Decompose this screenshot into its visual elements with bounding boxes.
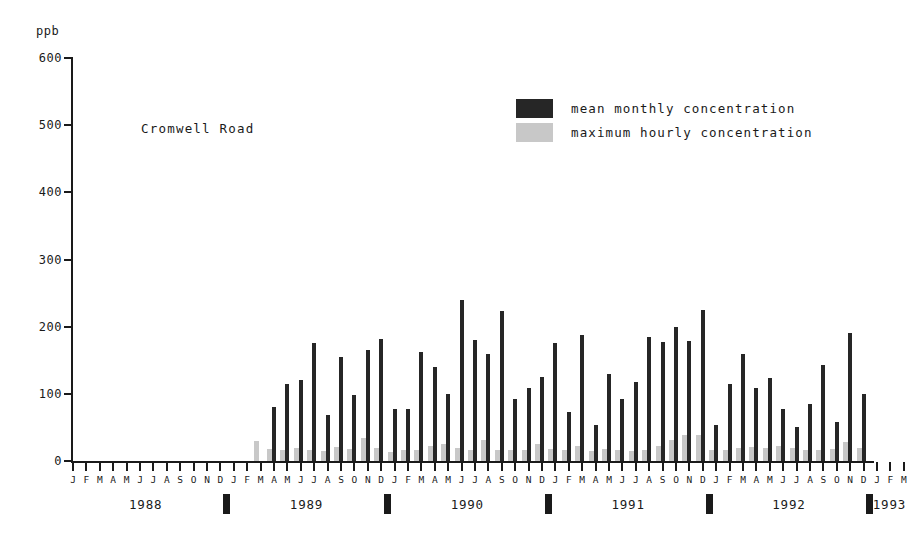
bar-mean-monthly [607,374,611,461]
bar-mean-monthly [821,365,825,461]
month-label: S [656,474,670,485]
month-label: J [227,474,241,485]
x-tick [782,462,784,471]
month-label: M [254,474,268,485]
x-tick [635,462,637,471]
bar-mean-monthly [661,342,665,461]
y-tick-label-text: 600 [22,51,62,65]
y-tick-label-text: 200 [22,320,62,334]
bar-mean-monthly [433,367,437,461]
x-tick [179,462,181,471]
x-tick [809,462,811,471]
x-tick [715,462,717,471]
x-tick [126,462,128,471]
month-label: J [146,474,160,485]
x-tick [755,462,757,471]
year-label-1991: 1991 [588,497,668,512]
month-label: N [200,474,214,485]
year-label-1988: 1988 [106,497,186,512]
x-tick [327,462,329,471]
x-tick [407,462,409,471]
y-tick-label-600: 600 [18,51,62,65]
bar-mean-monthly [808,404,812,461]
month-label: S [334,474,348,485]
y-tick-label-500: 500 [18,118,62,132]
x-tick [353,462,355,471]
chart-legend: mean monthly concentration maximum hourl… [516,96,813,144]
month-label: D [857,474,871,485]
x-tick [648,462,650,471]
year-label-1993: 1993 [849,497,911,512]
x-tick [246,462,248,471]
bar-mean-monthly [393,409,397,461]
month-label: O [187,474,201,485]
month-label: O [669,474,683,485]
y-tick-label-300: 300 [18,253,62,267]
x-tick [286,462,288,471]
legend-item-maximum-hourly: maximum hourly concentration [516,120,813,144]
x-tick [313,462,315,471]
year-separator [866,494,873,514]
bar-mean-monthly [701,310,705,461]
month-label: F [401,474,415,485]
x-tick [675,462,677,471]
bar-mean-monthly [567,412,571,461]
x-tick [769,462,771,471]
bar-mean-monthly [620,399,624,461]
month-label: M [120,474,134,485]
x-tick [340,462,342,471]
month-label: J [294,474,308,485]
x-tick [139,462,141,471]
bar-mean-monthly [741,354,745,461]
y-tick-label-400: 400 [18,185,62,199]
month-label: N [843,474,857,485]
month-label: A [321,474,335,485]
month-label: N [522,474,536,485]
bar-mean-monthly [862,394,866,461]
x-tick [729,462,731,471]
month-label: O [508,474,522,485]
bar-mean-monthly [473,340,477,461]
x-tick [85,462,87,471]
bar-mean-monthly [312,343,316,461]
x-tick [367,462,369,471]
y-tick-label-text: 300 [22,253,62,267]
bar-mean-monthly [527,388,531,461]
x-tick [112,462,114,471]
bar-mean-monthly [513,399,517,461]
x-tick [595,462,597,471]
x-tick [72,462,74,471]
month-label: D [374,474,388,485]
bar-mean-monthly [647,337,651,461]
bar-mean-monthly [768,378,772,461]
bar-mean-monthly [379,339,383,461]
month-label: J [307,474,321,485]
month-label: J [133,474,147,485]
x-tick [99,462,101,471]
x-tick [849,462,851,471]
x-tick [380,462,382,471]
bar-mean-monthly [634,382,638,461]
x-tick [621,462,623,471]
bar-mean-monthly [500,311,504,461]
month-label: O [830,474,844,485]
year-label-1992: 1992 [749,497,829,512]
month-label: J [709,474,723,485]
month-label: J [790,474,804,485]
x-tick [260,462,262,471]
month-label: A [106,474,120,485]
month-label: M [441,474,455,485]
legend-label-maximum-hourly: maximum hourly concentration [571,125,813,140]
bar-mean-monthly [728,384,732,461]
year-separator [223,494,230,514]
x-tick [863,462,865,471]
month-label: N [361,474,375,485]
month-label: F [79,474,93,485]
bar-mean-monthly [406,409,410,461]
month-label: S [495,474,509,485]
legend-swatch-maximum-hourly [516,123,553,142]
month-label: J [548,474,562,485]
y-tick-label-text: 100 [22,387,62,401]
month-label: S [173,474,187,485]
x-tick [219,462,221,471]
